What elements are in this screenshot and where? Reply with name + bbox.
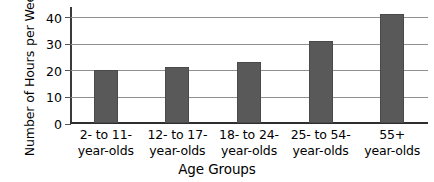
y-axis-title-line-1: Number of Hours	[22, 51, 37, 156]
y-tick-0	[65, 124, 71, 125]
bar-2	[165, 67, 189, 123]
x-axis-label-5-line-1: 55+	[347, 127, 434, 143]
x-axis-title: Age Groups	[0, 161, 434, 178]
y-axis-line	[70, 7, 72, 124]
bar-5	[380, 14, 404, 123]
bar-4	[309, 41, 333, 123]
y-tick-10	[65, 97, 71, 98]
bar-chart: Number of Hours per Week 010203040 2- to…	[0, 0, 434, 182]
y-tick-label-10: 10	[38, 91, 62, 104]
bar-1	[94, 70, 118, 123]
gridline-30	[70, 44, 428, 45]
y-tick-label-0: 0	[38, 118, 62, 131]
y-tick-label-20: 20	[38, 64, 62, 77]
y-tick-20	[65, 70, 71, 71]
bar-3	[237, 62, 261, 123]
plot-area: 010203040	[70, 7, 428, 124]
y-tick-30	[65, 44, 71, 45]
x-axis-label-5-line-2: year-olds	[347, 143, 434, 159]
x-axis-category-labels: 2- to 11-year-olds12- to 17-year-olds18-…	[70, 127, 428, 163]
y-axis-title-line-2: per Week	[22, 0, 37, 46]
x-axis-label-5: 55+year-olds	[347, 127, 434, 159]
y-tick-label-40: 40	[38, 11, 62, 24]
gridline-40	[70, 17, 428, 18]
y-tick-40	[65, 17, 71, 18]
y-tick-label-30: 30	[38, 38, 62, 51]
